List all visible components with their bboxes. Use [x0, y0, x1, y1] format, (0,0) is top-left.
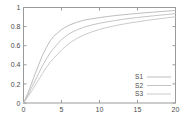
line-chart: 05101520 00.20.40.60.81 S1S2S3 [0, 0, 185, 122]
y-tick-label: 0.4 [11, 61, 21, 68]
x-tick-label: 10 [96, 106, 104, 113]
y-tick-label: 0 [17, 100, 21, 107]
y-tick-label: 0.6 [11, 42, 21, 49]
y-tick-label: 0.8 [11, 23, 21, 30]
y-tick-label: 0.2 [11, 81, 21, 88]
x-tick-label: 0 [22, 106, 26, 113]
x-tick-label: 20 [172, 106, 180, 113]
legend-label-s1: S1 [135, 73, 143, 80]
x-tick-label: 5 [60, 106, 64, 113]
x-tick-label: 15 [134, 106, 142, 113]
legend-label-s3: S3 [135, 90, 143, 97]
legend-label-s2: S2 [135, 82, 143, 89]
y-tick-label: 1 [17, 4, 21, 11]
chart-figure: 05101520 00.20.40.60.81 S1S2S3 [0, 0, 185, 122]
